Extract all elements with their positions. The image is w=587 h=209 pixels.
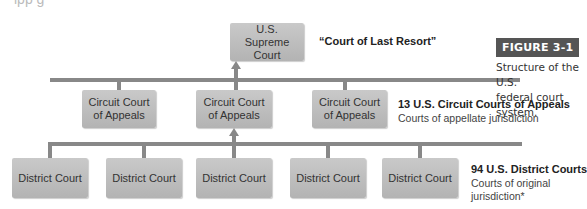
circuit-court-box: Circuit Court of Appeals	[196, 90, 272, 128]
district-courts-label: 94 U.S. District Courts	[471, 163, 587, 175]
district-sublabel-line2: jurisdiction*	[471, 190, 550, 203]
caption-line1: Structure of the U.S.	[496, 60, 583, 90]
cropped-text: ipp g	[14, 0, 44, 7]
district-label: District Court	[202, 172, 266, 185]
circuit-line2: of Appeals	[208, 109, 259, 122]
connector	[117, 78, 121, 90]
connector	[48, 142, 52, 158]
district-label: District Court	[296, 172, 360, 185]
circuit-line2: of Appeals	[93, 109, 144, 122]
caption-line2: federal court system.	[496, 90, 583, 120]
supreme-line1: U.S.	[256, 23, 277, 36]
connector	[142, 142, 146, 158]
connector	[343, 78, 347, 90]
district-courts-sublabel: Courts of original jurisdiction*	[471, 177, 550, 203]
connector	[418, 142, 422, 158]
district-sublabel-line1: Courts of original	[471, 177, 550, 190]
supreme-court-box: U.S. Supreme Court	[230, 23, 304, 61]
court-of-last-resort-label: “Court of Last Resort”	[319, 35, 436, 47]
district-court-box: District Court	[106, 158, 182, 198]
circuit-line1: Circuit Court	[319, 96, 380, 109]
district-court-box: District Court	[382, 158, 458, 198]
figure-caption: Structure of the U.S. federal court syst…	[496, 60, 583, 120]
district-label: District Court	[388, 172, 452, 185]
circuit-court-box: Circuit Court of Appeals	[82, 90, 156, 128]
connector	[326, 142, 330, 158]
connector	[232, 133, 236, 159]
district-court-box: District Court	[12, 158, 88, 198]
district-court-box: District Court	[290, 158, 366, 198]
connector	[48, 142, 522, 146]
circuit-line1: Circuit Court	[88, 96, 149, 109]
circuit-line1: Circuit Court	[203, 96, 264, 109]
circuit-court-box: Circuit Court of Appeals	[312, 90, 387, 128]
circuit-line2: of Appeals	[324, 109, 375, 122]
district-label: District Court	[112, 172, 176, 185]
supreme-line2: Supreme Court	[230, 36, 304, 62]
figure-tag: FIGURE 3-1	[496, 38, 579, 57]
district-court-box: District Court	[196, 158, 272, 198]
district-label: District Court	[18, 172, 82, 185]
